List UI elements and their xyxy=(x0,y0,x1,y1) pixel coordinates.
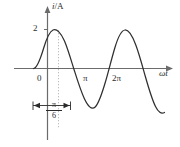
phase-numerator: π xyxy=(44,101,64,109)
x-axis xyxy=(14,66,173,72)
y-axis-arrowhead xyxy=(45,6,51,13)
x-axis-label: ωt xyxy=(159,69,168,78)
origin-tick-label: 0 xyxy=(37,74,42,83)
pi-tick-label: π xyxy=(83,74,88,83)
two-pi-tick-label: 2π xyxy=(112,74,121,83)
phase-fraction-label: π 6 xyxy=(44,101,64,121)
y-axis-label: i/A xyxy=(52,2,64,11)
amplitude-tick-label: 2 xyxy=(33,24,38,33)
waveform-figure: i/A ωt 2 0 π 2π π 6 xyxy=(0,0,180,147)
phase-denominator: 6 xyxy=(44,112,64,120)
plot-canvas xyxy=(0,0,180,147)
phase-span-right-arrowhead xyxy=(64,103,70,108)
phase-span-left-arrowhead xyxy=(34,103,40,108)
y-axis-unit: A xyxy=(57,1,64,11)
